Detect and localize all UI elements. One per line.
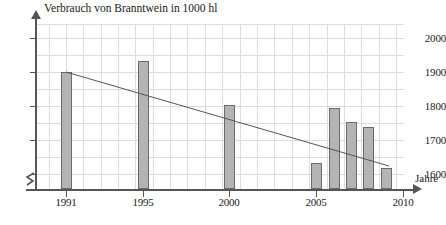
x-tick-label: 2010 [383, 197, 423, 208]
x-tick-label: 2000 [209, 197, 249, 208]
y-tick-label: 1700 [414, 135, 446, 146]
x-axis [26, 189, 416, 191]
x-axis-arrow-icon [413, 184, 422, 194]
chart-title: Verbrauch von Branntwein in 1000 hl [44, 2, 217, 14]
y-tick [30, 72, 37, 73]
x-tick-label: 1995 [123, 197, 163, 208]
y-tick [30, 174, 37, 175]
x-tick-label: 1991 [46, 197, 86, 208]
y-tick-label: 1800 [414, 101, 446, 112]
x-axis-title: Jahre [415, 173, 438, 184]
y-axis [35, 16, 37, 190]
y-tick [30, 106, 37, 107]
trend-line [66, 72, 389, 166]
y-tick-label: 2000 [414, 33, 446, 44]
y-tick [30, 38, 37, 39]
chart-container: 2000 1900 1800 1700 1600 1991 1995 2000 … [0, 0, 446, 225]
y-axis-arrow-icon [31, 10, 41, 19]
y-tick-label: 1900 [414, 67, 446, 78]
y-tick [30, 140, 37, 141]
x-tick-label: 2005 [296, 197, 336, 208]
